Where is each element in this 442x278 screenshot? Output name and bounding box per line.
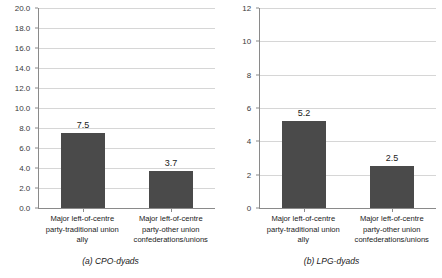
x-category-label-line: party-traditional union [260,225,347,236]
y-axis-ticks-lpg: 024681012 [221,8,255,208]
y-tick-label: 8.0 [19,124,30,133]
bar [282,121,326,208]
y-tick-mark [35,68,38,69]
y-tick-label: 4 [247,137,251,146]
bar [149,171,193,208]
bar-value-label: 5.2 [298,108,311,118]
gridline [260,75,436,76]
x-category-label: Major left-of-centreparty-traditional un… [38,214,127,252]
y-tick-label: 16.0 [15,44,30,53]
gridline [260,41,436,42]
y-tick-mark [35,208,38,209]
x-category-label-line: Major left-of-centre [349,214,436,225]
chart-panel-cpo-dyads: 0.02.04.06.08.010.012.014.016.018.020.0 … [0,0,221,278]
x-category-label: Major left-of-centreparty-traditional un… [259,214,348,252]
y-tick-mark [256,8,259,9]
gridline [39,108,215,109]
plot-area-lpg: 024681012 5.22.5 [221,0,442,215]
y-tick-mark [35,188,38,189]
x-tick-mark [304,208,305,212]
y-tick-mark [35,128,38,129]
y-tick-label: 14.0 [15,64,30,73]
y-tick-label: 10.0 [15,104,30,113]
bar-value-label: 7.5 [77,120,90,130]
y-tick-label: 10 [242,37,251,46]
gridline [260,8,436,9]
gridline [39,88,215,89]
x-axis-line-cpo [38,208,215,209]
y-tick-mark [256,41,259,42]
x-axis-category-labels-cpo: Major left-of-centreparty-traditional un… [38,214,215,252]
bar-value-label: 2.5 [386,153,399,163]
gridline [260,108,436,109]
x-category-label-line: confederations/unions [349,235,436,246]
bars-container-lpg: 5.22.5 [260,8,436,208]
plot-area-cpo: 0.02.04.06.08.010.012.014.016.018.020.0 … [0,0,221,215]
gridline [39,48,215,49]
x-category-label-line: party-other union [349,225,436,236]
y-tick-label: 0 [247,204,251,213]
x-category-label-line: ally [260,235,347,246]
bar [370,166,414,208]
y-tick-label: 2 [247,170,251,179]
y-tick-mark [256,141,259,142]
y-tick-mark [256,208,259,209]
y-tick-label: 12 [242,4,251,13]
x-axis-category-labels-lpg: Major left-of-centreparty-traditional un… [259,214,436,252]
bar [61,133,105,208]
bar-value-label: 3.7 [165,158,178,168]
x-category-label-line: Major left-of-centre [39,214,126,225]
y-tick-mark [35,88,38,89]
y-tick-mark [256,108,259,109]
figure-two-panel-bar-charts: 0.02.04.06.08.010.012.014.016.018.020.0 … [0,0,442,278]
x-category-label-line: Major left-of-centre [260,214,347,225]
x-axis-line-lpg [259,208,436,209]
y-tick-label: 4.0 [19,164,30,173]
x-category-label-line: confederations/unions [128,235,215,246]
x-category-label-line: party-traditional union [39,225,126,236]
y-tick-mark [35,28,38,29]
y-tick-mark [256,174,259,175]
y-tick-label: 0.0 [19,204,30,213]
y-tick-mark [35,148,38,149]
x-tick-mark [392,208,393,212]
panel-caption-cpo: (a) CPO-dyads [0,256,221,266]
y-tick-label: 6 [247,104,251,113]
y-tick-label: 2.0 [19,184,30,193]
x-tick-mark [171,208,172,212]
gridline [39,28,215,29]
y-axis-ticks-cpo: 0.02.04.06.08.010.012.014.016.018.020.0 [0,8,34,208]
x-category-label: Major left-of-centreparty-other unioncon… [127,214,216,252]
y-tick-label: 8 [247,70,251,79]
y-tick-mark [256,74,259,75]
y-tick-mark [35,48,38,49]
y-tick-mark [35,108,38,109]
panel-caption-lpg: (b) LPG-dyads [221,256,442,266]
y-tick-mark [35,168,38,169]
x-category-label: Major left-of-centreparty-other unioncon… [348,214,437,252]
bars-container-cpo: 7.53.7 [39,8,215,208]
chart-panel-lpg-dyads: 024681012 5.22.5 Major left-of-centrepar… [221,0,442,278]
gridline [39,8,215,9]
x-tick-mark [83,208,84,212]
y-tick-label: 18.0 [15,24,30,33]
y-tick-label: 6.0 [19,144,30,153]
gridline [39,68,215,69]
x-category-label-line: Major left-of-centre [128,214,215,225]
y-tick-mark [35,8,38,9]
gridline [39,128,215,129]
y-tick-label: 20.0 [15,4,30,13]
x-category-label-line: ally [39,235,126,246]
x-category-label-line: party-other union [128,225,215,236]
y-tick-label: 12.0 [15,84,30,93]
